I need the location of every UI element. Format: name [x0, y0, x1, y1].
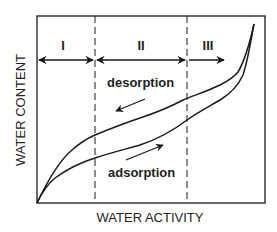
region-2-label: II: [137, 38, 144, 53]
sorption-isotherm-diagram: I II III desorption adsorption WATER ACT…: [0, 0, 277, 232]
x-axis-label: WATER ACTIVITY: [97, 210, 204, 225]
region-3-label: III: [203, 38, 214, 53]
region-1-label: I: [61, 38, 65, 53]
adsorption-label: adsorption: [108, 165, 175, 180]
desorption-label: desorption: [107, 75, 174, 90]
y-axis-label: WATER CONTENT: [13, 54, 28, 166]
desorption-direction-arrow: [116, 99, 145, 111]
